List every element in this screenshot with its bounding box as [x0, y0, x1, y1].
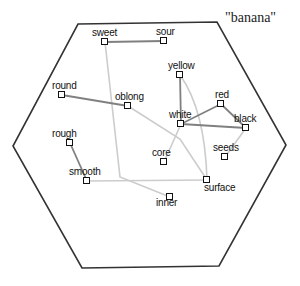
edge-white-black — [181, 124, 246, 128]
node-rough[interactable] — [66, 139, 73, 146]
node-label-seeds: seeds — [213, 143, 239, 153]
node-white[interactable] — [177, 120, 184, 127]
edge-sweet-inner — [105, 42, 170, 197]
node-label-rough: rough — [52, 129, 77, 139]
node-label-white: white — [169, 110, 191, 120]
node-red[interactable] — [217, 100, 224, 107]
node-label-yellow: yellow — [168, 61, 195, 71]
node-sour[interactable] — [160, 37, 167, 44]
word-association-diagram: "banana" sweetsouryellowroundoblongredwh… — [0, 0, 300, 286]
node-label-surface: surface — [204, 183, 235, 193]
node-black[interactable] — [242, 124, 249, 131]
edge-sweet-sour — [105, 41, 164, 42]
hexagon-boundary — [13, 22, 286, 268]
node-core[interactable] — [160, 158, 167, 165]
edge-yellow-surface — [180, 75, 207, 180]
node-label-inner: inner — [156, 198, 177, 208]
node-round[interactable] — [58, 91, 65, 98]
diagram-title: "banana" — [225, 10, 276, 26]
node-label-oblong: oblong — [115, 92, 144, 102]
node-seeds[interactable] — [221, 153, 228, 160]
node-label-black: black — [234, 114, 256, 124]
node-label-round: round — [52, 81, 77, 91]
strong-edges — [62, 41, 246, 181]
weak-edges — [87, 42, 246, 197]
edge-smooth-surface — [87, 180, 207, 181]
node-label-core: core — [152, 148, 171, 158]
node-label-sour: sour — [156, 27, 175, 37]
node-label-sweet: sweet — [92, 28, 117, 38]
node-label-smooth: smooth — [69, 167, 101, 177]
node-sweet[interactable] — [101, 38, 108, 45]
node-smooth[interactable] — [83, 177, 90, 184]
node-oblong[interactable] — [124, 102, 131, 109]
node-yellow[interactable] — [176, 71, 183, 78]
graph-canvas — [0, 0, 300, 286]
node-label-red: red — [215, 90, 229, 100]
